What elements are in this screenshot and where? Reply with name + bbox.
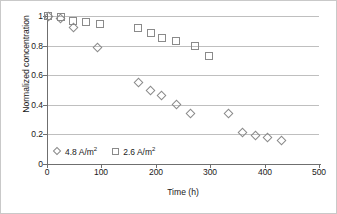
legend-label-1: 2.6 A/m2: [123, 146, 155, 157]
data-point: [191, 42, 199, 50]
legend-item-1: 2.6 A/m2: [110, 146, 155, 157]
data-point: [57, 13, 65, 21]
legend-item-0: 4.8 A/m2: [52, 146, 97, 157]
chart-figure: Normalized concentration 00.20.40.60.81 …: [0, 0, 337, 214]
y-axis-tick-label: 0.8: [31, 42, 43, 50]
y-axis-tick-label: 0.2: [31, 130, 43, 138]
x-axis-tick-label: 0: [27, 168, 67, 177]
x-axis-tick-label: 400: [245, 168, 285, 177]
x-axis-title: Time (h): [47, 187, 319, 197]
data-point: [44, 12, 52, 20]
chart-legend: 4.8 A/m2 2.6 A/m2: [48, 143, 172, 160]
data-point: [158, 34, 166, 42]
diamond-marker-icon: [52, 146, 62, 156]
data-point: [69, 17, 77, 25]
data-point: [205, 52, 213, 60]
x-axis-tick-label: 100: [81, 168, 121, 177]
data-point: [134, 24, 142, 32]
data-point: [82, 18, 90, 26]
x-axis-tick-label: 300: [190, 168, 230, 177]
data-point: [147, 29, 155, 37]
y-axis-title: Normalized concentration: [21, 0, 31, 134]
x-axis-line: [45, 164, 321, 165]
x-axis-tick-label: 200: [136, 168, 176, 177]
data-point: [96, 20, 104, 28]
y-axis-tick-label: 0.4: [31, 101, 43, 109]
square-marker-icon: [110, 146, 120, 156]
x-axis-tick-label: 500: [299, 168, 337, 177]
y-axis-tick-label: 0.6: [31, 71, 43, 79]
y-axis-tick-label: 0: [38, 160, 43, 168]
legend-label-0: 4.8 A/m2: [65, 146, 97, 157]
data-point: [172, 37, 180, 45]
